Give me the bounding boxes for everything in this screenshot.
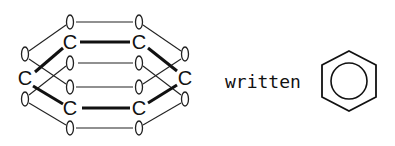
orbital-overlap-lines bbox=[29, 22, 181, 128]
carbon-atom: C bbox=[132, 97, 146, 119]
written-label: written bbox=[225, 71, 301, 92]
carbon-atom: C bbox=[18, 67, 32, 89]
p-orbital-lobes bbox=[22, 15, 189, 135]
carbon-atom: C bbox=[132, 31, 146, 53]
carbon-atom: C bbox=[63, 31, 77, 53]
benzene-diagram: C C C C C C written bbox=[0, 0, 395, 146]
carbon-atoms: C C C C C C bbox=[18, 31, 192, 119]
carbon-atom: C bbox=[63, 97, 77, 119]
benzene-symbol-icon bbox=[322, 51, 376, 111]
carbon-atom: C bbox=[178, 67, 192, 89]
